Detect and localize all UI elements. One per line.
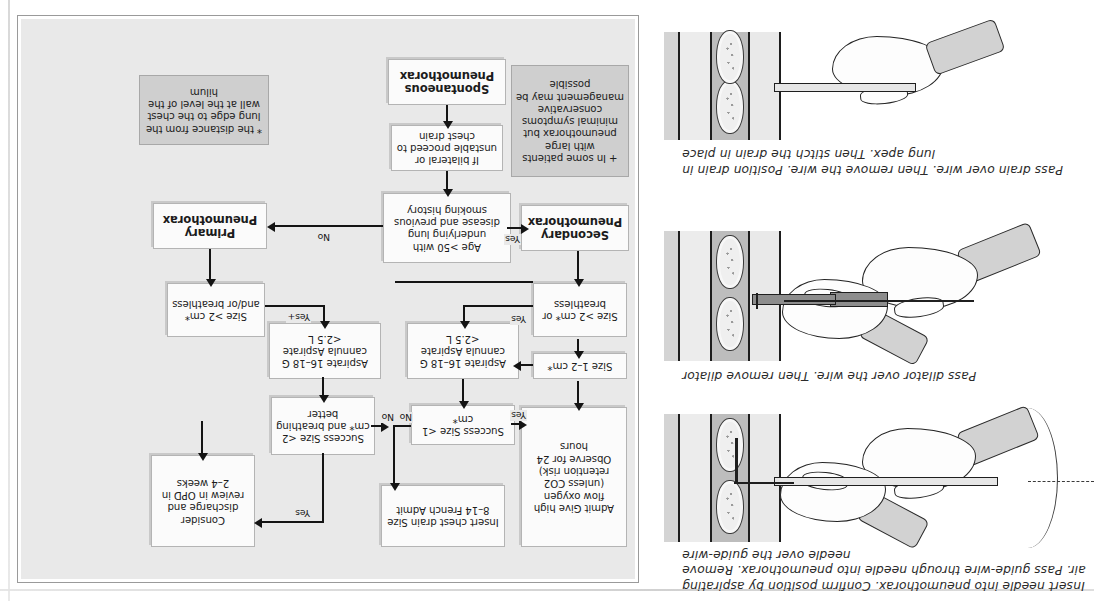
edge-primary-success-no xyxy=(371,425,381,427)
node-secondary-pneumothorax[interactable]: Secondary Pneumothorax xyxy=(521,205,629,251)
arrow-age-yes-secondary xyxy=(521,224,529,234)
figure-caption-drain-over-wire: Pass drain over wire. Then remove the wi… xyxy=(664,146,1094,177)
figure-caption-needle-guidewire: Insert needle into pneumothorax. Confirm… xyxy=(664,547,1094,594)
edge-size12-to-admit xyxy=(577,381,579,405)
chest-wall-cross-section-3 xyxy=(664,32,784,140)
note-plus-conservative-management: + In some patients with large pneumothor… xyxy=(511,65,629,177)
rib-upper-2 xyxy=(716,298,744,352)
arrow-primary-to-size xyxy=(206,279,216,287)
arrow-primary-success-no xyxy=(381,422,389,432)
guide-wire-bend xyxy=(736,439,739,485)
node-insert-chest-drain[interactable]: Insert chest drain Size 8–14 French Admi… xyxy=(381,485,505,547)
arrow-size12-to-aspirate xyxy=(513,361,521,371)
figure-dilator: Pass dilator over the wire. Then remove … xyxy=(664,207,1094,383)
edge-secondary-to-size xyxy=(577,251,579,281)
node-primary-success[interactable]: Success Size <2 cm* and breathing better xyxy=(271,397,375,455)
torso-outline xyxy=(997,409,1058,549)
edge-discharge-feed xyxy=(201,421,203,455)
node-secondary-success[interactable]: Success Size <1 cm* xyxy=(411,405,515,445)
guide-wire-2 xyxy=(784,300,974,302)
midline-dash xyxy=(1028,482,1094,483)
rib-lower-3 xyxy=(716,30,744,84)
node-bilateral-unstable[interactable]: If bilateral or unstable proceed to ches… xyxy=(391,125,503,171)
illustration-column: Insert needle into pneumothorax. Confirm… xyxy=(664,0,1094,601)
figure-art-drain-over-wire xyxy=(664,32,1094,140)
edge-primary-success-yes-right xyxy=(260,521,324,523)
edge-label-yes-primary-success: Yes xyxy=(294,508,311,519)
arrow-secondary-size-yes xyxy=(460,321,470,329)
arrow-discharge-feed xyxy=(198,453,208,461)
flowchart-inner-frame: Spontaneous Pneumothorax + In some patie… xyxy=(25,23,631,575)
edge-label-no-secondary-success: No xyxy=(399,412,414,423)
edge-rail-to-chest-drain xyxy=(395,281,533,283)
node-spontaneous-pneumothorax[interactable]: Spontaneous Pneumothorax xyxy=(388,59,506,105)
arrow-secondary-success-no xyxy=(390,483,400,491)
edge-primary-to-size xyxy=(209,249,211,281)
chest-drain-tube xyxy=(774,478,998,487)
rib-lower xyxy=(716,419,744,473)
node-secondary-aspirate[interactable]: Aspirate 16–18 G cannula Aspirate <2.5 L xyxy=(407,323,519,379)
forearm-3 xyxy=(924,18,1005,75)
edge-secondary-success-yes xyxy=(511,423,519,425)
figure-needle-guidewire: Insert needle into pneumothorax. Confirm… xyxy=(664,413,1094,593)
arrow-primary-aspirate-to-success xyxy=(319,395,329,403)
edge-secondary-aspirate-to-success xyxy=(462,379,464,403)
edge-age-yes-secondary xyxy=(507,227,521,229)
node-primary-size-gt2[interactable]: Size >2 cm* and/or breathless xyxy=(167,283,265,337)
arrow-secondary-to-size xyxy=(574,279,584,287)
node-age-over-50-question[interactable]: Age >50 with underlying lung disease and… xyxy=(383,193,511,263)
edge-primary-size-yes xyxy=(265,305,325,307)
arrow-secondary-success-yes xyxy=(519,420,527,430)
edge-label-yes-plus-primary: Yes+ xyxy=(286,312,311,323)
edge-label-no-primary-success: No xyxy=(381,412,396,423)
arrow-size12-to-admit xyxy=(574,403,584,411)
arrow-secondary-aspirate-to-success xyxy=(459,401,469,409)
footnote-size-definition: * the distance from the lung edge to the… xyxy=(139,75,269,145)
arrow-spontaneous-to-bilateral xyxy=(443,121,453,129)
edge-primary-aspirate-to-success xyxy=(322,377,324,397)
rib-upper xyxy=(716,481,744,535)
figure-art-dilator xyxy=(664,232,1094,362)
edge-label-no-age: No xyxy=(317,232,332,243)
edge-primary-success-yes-up xyxy=(322,453,324,523)
arrow-bilateral-to-age xyxy=(443,189,453,197)
scanned-page: Insert needle into pneumothorax. Confirm… xyxy=(0,0,1094,601)
node-consider-discharge[interactable]: Consider discharge and review in OPD in … xyxy=(151,455,255,547)
edge-label-yes-age: Yes xyxy=(504,234,521,245)
edge-secondary-size-yes xyxy=(465,305,533,307)
needle-3 xyxy=(774,83,916,92)
node-primary-pneumothorax[interactable]: Primary Pneumothorax xyxy=(153,203,267,249)
arrow-primary-size-yes xyxy=(320,321,330,329)
arrow-size12-up xyxy=(574,351,584,359)
chest-wall-cross-section xyxy=(664,415,784,543)
arrow-age-no-primary xyxy=(267,222,275,232)
edge-bilateral-to-age xyxy=(446,171,448,191)
node-primary-aspirate[interactable]: Aspirate 16–18 G cannula Aspirate <2.5 L xyxy=(269,323,381,379)
pneumothorax-flowchart: Spontaneous Pneumothorax + In some patie… xyxy=(17,15,639,583)
edge-label-yes-secondary-success: Yes xyxy=(510,410,527,421)
edge-age-no-primary xyxy=(275,225,383,227)
node-secondary-size-gt2[interactable]: Size >2 cm* or breathless xyxy=(533,283,627,337)
figure-drain-over-wire: Pass drain over wire. Then remove the wi… xyxy=(664,1,1094,177)
rib-lower-2 xyxy=(716,236,744,290)
edge-size12-to-aspirate xyxy=(519,364,533,366)
edge-secondary-success-no xyxy=(393,425,411,427)
arrow-primary-success-yes xyxy=(254,518,262,528)
figure-caption-dilator: Pass dilator over the wire. Then remove … xyxy=(664,368,1094,384)
guide-wire xyxy=(734,482,794,485)
rib-upper-3 xyxy=(716,80,744,134)
guide-wire-tip-2 xyxy=(756,294,758,310)
node-admit-high-flow-oxygen[interactable]: Admit Give high flow oxygen (unless CO2 … xyxy=(521,407,627,547)
edge-secondary-success-no-up xyxy=(393,425,395,485)
figure-art-needle-guidewire xyxy=(664,415,1094,543)
edge-label-yes-secondary-size: Yes xyxy=(510,314,527,325)
